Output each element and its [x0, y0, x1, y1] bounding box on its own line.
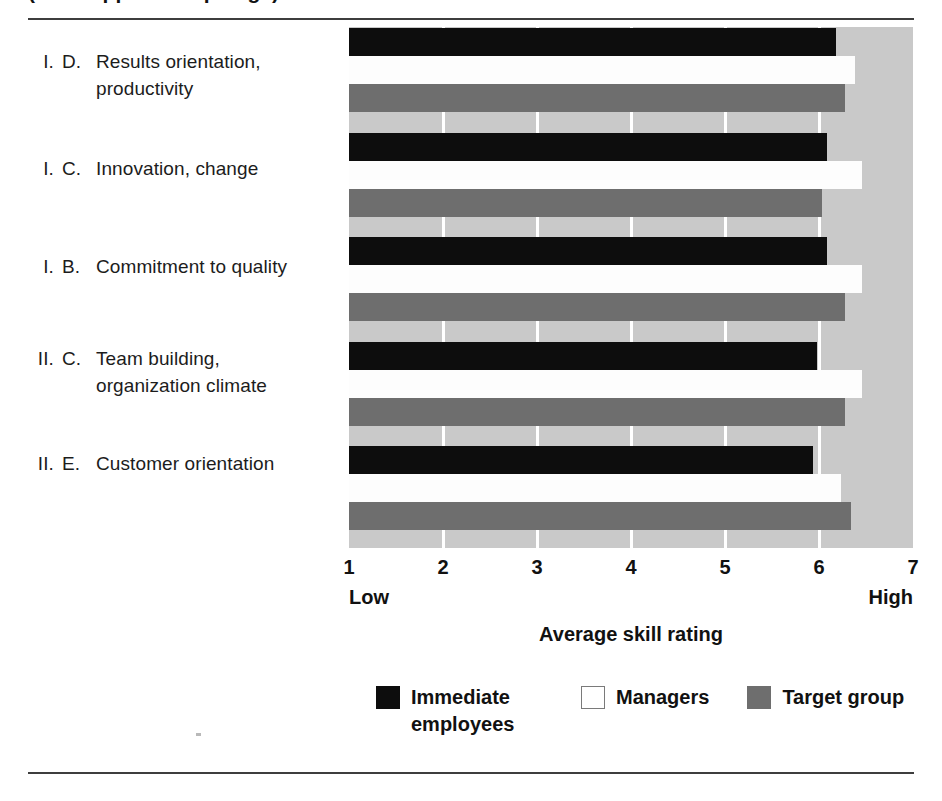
bar-1-2 [349, 189, 822, 217]
bar-3-0 [349, 342, 817, 370]
category-text2-0: productivity [28, 75, 261, 102]
bar-3-2 [349, 398, 845, 426]
legend-label-managers: Managers [616, 684, 709, 711]
bar-1-1 [349, 161, 862, 189]
axis-high-label: High [869, 586, 913, 609]
bar-2-1 [349, 265, 862, 293]
legend-item-target-group[interactable]: Target group [747, 684, 904, 711]
category-letter-2: B. [54, 253, 96, 280]
category-roman-0: I. [28, 48, 54, 75]
category-text-1: Innovation, change [96, 158, 258, 179]
legend-swatch-target-group [747, 686, 771, 709]
bar-0-0 [349, 28, 836, 56]
bottom-rule [28, 772, 914, 774]
x-tick-7: 7 [907, 556, 918, 579]
category-label-1: I.C.Innovation, change [28, 155, 258, 182]
category-label-3: II.C.Team building,organization climate [28, 345, 267, 399]
bar-3-1 [349, 370, 862, 398]
chart-plot-area [349, 27, 913, 548]
legend-label-immediate-employees: Immediate employees [411, 684, 543, 738]
bar-0-1 [349, 56, 855, 84]
x-tick-5: 5 [719, 556, 730, 579]
legend-item-immediate-employees[interactable]: Immediate employees [376, 684, 543, 738]
bar-2-2 [349, 293, 845, 321]
bar-1-0 [349, 133, 827, 161]
category-label-2: I.B.Commitment to quality [28, 253, 287, 280]
category-letter-0: D. [54, 48, 96, 75]
scan-artifact [196, 733, 201, 736]
category-roman-2: I. [28, 253, 54, 280]
top-rule [28, 18, 914, 20]
legend-swatch-managers [581, 686, 605, 709]
category-roman-1: I. [28, 155, 54, 182]
category-label-0: I.D.Results orientation,productivity [28, 48, 261, 102]
category-text2-3: organization climate [28, 372, 267, 399]
category-label-4: II.E.Customer orientation [28, 450, 274, 477]
category-text-3: Team building, [96, 348, 220, 369]
category-letter-3: C. [54, 345, 96, 372]
category-text-4: Customer orientation [96, 453, 274, 474]
bar-4-1 [349, 474, 841, 502]
x-tick-3: 3 [531, 556, 542, 579]
legend-swatch-immediate-employees [376, 686, 400, 709]
legend-label-target-group: Target group [782, 684, 904, 711]
bar-2-0 [349, 237, 827, 265]
x-tick-6: 6 [813, 556, 824, 579]
legend-item-managers[interactable]: Managers [581, 684, 709, 711]
axis-low-label: Low [349, 586, 389, 609]
x-axis-title: Average skill rating [349, 623, 913, 646]
category-roman-4: II. [28, 450, 54, 477]
category-text-2: Commitment to quality [96, 256, 287, 277]
category-letter-1: C. [54, 155, 96, 182]
page-title-text: (title clipped at top edge) [28, 0, 914, 4]
chart-legend: Immediate employeesManagersTarget group [376, 684, 904, 738]
x-tick-4: 4 [625, 556, 636, 579]
category-text-0: Results orientation, [96, 51, 261, 72]
category-roman-3: II. [28, 345, 54, 372]
category-letter-4: E. [54, 450, 96, 477]
bar-4-2 [349, 502, 851, 530]
bar-4-0 [349, 446, 813, 474]
page-title: (title clipped at top edge) [28, 0, 914, 14]
x-tick-1: 1 [343, 556, 354, 579]
x-tick-2: 2 [437, 556, 448, 579]
bar-0-2 [349, 84, 845, 112]
